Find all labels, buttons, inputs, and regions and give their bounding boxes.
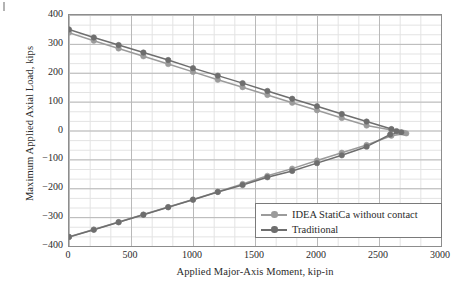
x-tick-label: 2500 (348, 250, 408, 260)
y-tick-label: −100 (3, 153, 63, 163)
y-tick-label: −400 (3, 240, 63, 250)
y-tick-label: 200 (3, 67, 63, 77)
x-axis-title: Applied Major-Axis Moment, kip-in (68, 266, 442, 277)
legend-item: Traditional (261, 222, 436, 237)
x-tick-label: 2000 (286, 250, 346, 260)
x-tick-label: 1500 (224, 250, 284, 260)
chart-legend: IDEA StatiCa without contact Traditional (255, 203, 442, 238)
legend-swatch-icon (261, 224, 287, 235)
y-tick-label: −200 (3, 182, 63, 192)
x-tick-label: 500 (100, 250, 160, 260)
legend-item: IDEA StatiCa without contact (261, 207, 436, 222)
y-tick-label: 100 (3, 96, 63, 106)
y-tick-label: 400 (3, 9, 63, 19)
legend-item-label: Traditional (292, 224, 338, 235)
figure-interaction-diagram: Maximum Applied Axial Load, kips Applied… (0, 0, 473, 293)
legend-item-label: IDEA StatiCa without contact (292, 209, 418, 220)
x-tick-label: 0 (38, 250, 98, 260)
x-tick-label: 1000 (162, 250, 222, 260)
y-tick-label: −300 (3, 211, 63, 221)
x-tick-label: 3000 (410, 250, 470, 260)
y-tick-label: 300 (3, 38, 63, 48)
legend-swatch-icon (261, 209, 287, 220)
y-tick-label: 0 (3, 125, 63, 135)
